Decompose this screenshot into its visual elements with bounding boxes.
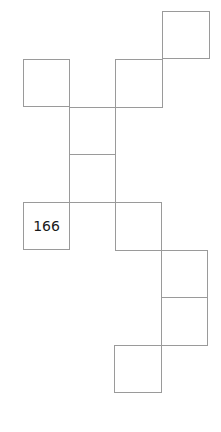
grid-cell xyxy=(161,297,208,346)
grid-cell xyxy=(115,202,162,251)
grid-cell xyxy=(23,59,70,107)
grid-cell xyxy=(69,154,116,203)
grid-cell-labeled: 166 xyxy=(23,202,70,250)
grid-cell xyxy=(162,11,210,59)
cell-label: 166 xyxy=(33,218,60,234)
grid-cell xyxy=(115,59,163,108)
grid-cell xyxy=(114,345,162,393)
grid-cell xyxy=(161,250,208,298)
grid-cell xyxy=(69,107,116,155)
